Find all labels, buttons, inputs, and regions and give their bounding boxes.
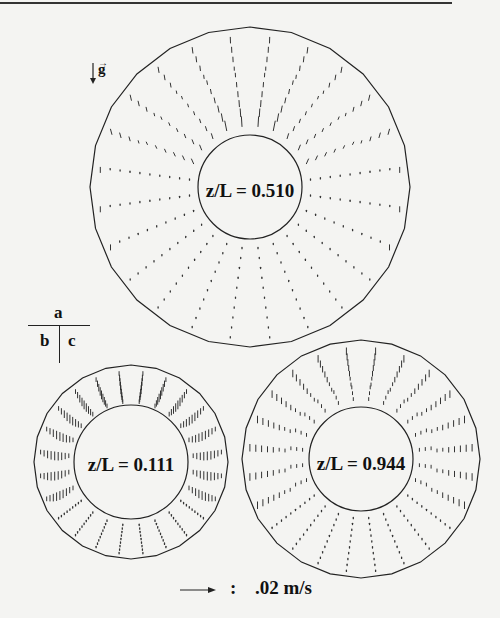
panel-key-b: b <box>40 331 49 351</box>
panel-key-vline <box>59 325 60 363</box>
gravity-indicator: g → <box>90 60 110 86</box>
scale-separator: : <box>230 577 236 599</box>
panel-a-label: z/L = 0.510 <box>206 180 294 202</box>
panel-key-c: c <box>68 331 76 351</box>
panel-key-a: a <box>54 303 63 323</box>
velocity-scale-bar: : .02 m/s <box>180 577 380 605</box>
scale-arrow-icon <box>180 580 220 600</box>
panel-key: a b c <box>28 303 92 363</box>
scale-value: .02 m/s <box>255 577 312 599</box>
panel-b-label: z/L = 0.111 <box>88 454 174 476</box>
panel-c-label: z/L = 0.944 <box>317 453 405 475</box>
gravity-vector-bar: → <box>98 57 108 68</box>
